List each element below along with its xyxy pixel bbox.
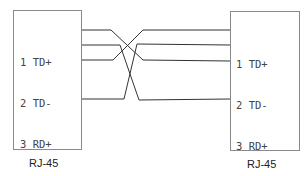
right-connector-caption: RJ-45	[247, 158, 276, 170]
wire-6-to-2	[82, 44, 230, 99]
wire-2-to-6	[82, 45, 230, 100]
crossover-wires	[0, 0, 308, 176]
left-connector-caption: RJ-45	[29, 157, 58, 169]
